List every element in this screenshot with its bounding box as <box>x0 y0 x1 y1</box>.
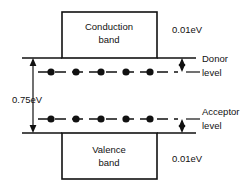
donor-level-label-line2: level <box>202 67 222 78</box>
donor-offset-label: 0.01eV <box>172 24 203 35</box>
acceptor-offset-arrow <box>179 119 186 133</box>
carrier-dot <box>47 68 54 75</box>
carrier-dot <box>97 115 104 122</box>
carrier-dot <box>72 68 79 75</box>
carrier-dot <box>47 115 54 122</box>
acceptor-level-label-line2: level <box>202 120 222 131</box>
band-gap-label: 0.75eV <box>12 94 43 105</box>
valence-band-label-line2: band <box>98 157 119 168</box>
carrier-dot <box>97 68 104 75</box>
carrier-dot <box>72 115 79 122</box>
conduction-band-label-line2: band <box>98 34 119 45</box>
donor-level-label-line1: Donor <box>202 53 228 64</box>
acceptor-offset-label: 0.01eV <box>172 153 203 164</box>
diagram-canvas: Conduction band Valence band 0.75eV 0.01… <box>0 0 243 191</box>
carrier-dot <box>146 68 153 75</box>
valence-band-label-line1: Valence <box>92 144 126 155</box>
carrier-dot <box>122 68 129 75</box>
acceptor-level-label-line1: Acceptor <box>202 106 240 117</box>
energy-band-diagram: Conduction band Valence band 0.75eV 0.01… <box>0 0 243 191</box>
valence-band-box <box>62 133 157 179</box>
donor-offset-arrow <box>179 58 186 72</box>
conduction-band-label-line1: Conduction <box>85 21 133 32</box>
carrier-dot <box>146 115 153 122</box>
carrier-dot <box>122 115 129 122</box>
